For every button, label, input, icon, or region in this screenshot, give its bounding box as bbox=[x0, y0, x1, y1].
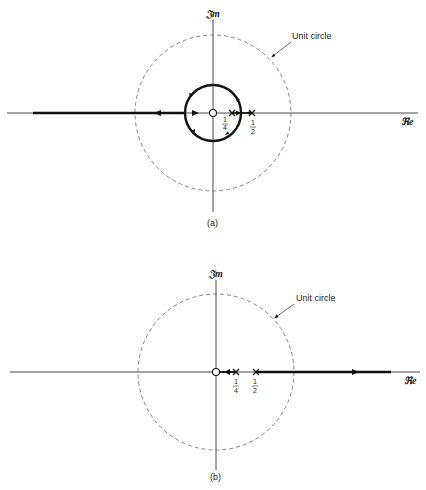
tick-quarter-num: 1 bbox=[234, 378, 238, 385]
unit-circle-label: Unit circle bbox=[292, 31, 332, 41]
tick-quarter-num: 1 bbox=[223, 116, 227, 123]
real-axis-label: ℜe bbox=[401, 116, 414, 127]
tick-quarter-den: 4 bbox=[234, 387, 238, 394]
locus-arrow bbox=[192, 110, 199, 116]
tick-half-den: 2 bbox=[251, 128, 255, 135]
zero-marker bbox=[213, 369, 220, 376]
unit-circle-pointer bbox=[273, 42, 291, 56]
imag-axis-label: 𝔍m bbox=[205, 8, 220, 19]
tick-half-num: 1 bbox=[251, 119, 255, 126]
unit-circle-pointer bbox=[276, 304, 294, 317]
unit-circle-label: Unit circle bbox=[296, 293, 336, 303]
locus-arrow bbox=[224, 369, 230, 375]
locus-arrow bbox=[352, 369, 359, 375]
panel-a: 1 4 1 2 𝔍m ℜe Unit circle (a) bbox=[7, 8, 418, 228]
zero-marker bbox=[210, 110, 217, 117]
real-axis-label: ℜe bbox=[404, 375, 417, 386]
locus-arrow bbox=[225, 131, 229, 135]
root-locus-diagram: 1 4 1 2 𝔍m ℜe Unit circle (a) 1 4 1 bbox=[0, 0, 426, 490]
caption-b: (b) bbox=[210, 472, 221, 482]
panel-b: 1 4 1 2 𝔍m ℜe Unit circle (b) bbox=[10, 268, 420, 482]
tick-half-den: 2 bbox=[253, 387, 257, 394]
imag-axis-label: 𝔍m bbox=[208, 268, 223, 279]
locus-arrow bbox=[154, 110, 161, 116]
caption-a: (a) bbox=[207, 218, 218, 228]
tick-half-num: 1 bbox=[253, 378, 257, 385]
tick-quarter-den: 4 bbox=[223, 124, 227, 131]
